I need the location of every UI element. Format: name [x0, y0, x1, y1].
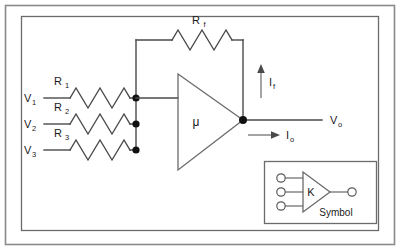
- amplifier-gain-label: μ: [193, 115, 200, 129]
- input-resistor-label-r2: R: [54, 101, 62, 113]
- input-source-sublabel-v1: 1: [32, 98, 36, 107]
- input-source-label-v2: V: [24, 118, 32, 130]
- output-junction-dot: [239, 116, 247, 124]
- junction-dot-v3: [132, 146, 139, 153]
- input-source-sublabel-v2: 2: [32, 124, 36, 133]
- output-voltage-label: V: [330, 114, 338, 126]
- input-resistor-sublabel-r2: 2: [65, 107, 69, 116]
- input-resistor-sublabel-r3: 3: [65, 133, 69, 142]
- output-current-label: I: [286, 129, 289, 141]
- circuit-figure: R f V 1 R 1 V 2 R 2 V 3 R 3: [0, 0, 400, 250]
- input-resistor-sublabel-r1: 1: [65, 81, 69, 90]
- circuit-diagram-canvas: R f V 1 R 1 V 2 R 2 V 3 R 3: [0, 0, 400, 250]
- junction-dot-v2: [132, 120, 139, 127]
- input-resistor-label-r1: R: [54, 75, 62, 87]
- symbol-input-terminal-1: [277, 174, 285, 182]
- feedback-current-label: I: [269, 76, 272, 88]
- symbol-output-terminal: [348, 188, 356, 196]
- output-current-sublabel: o: [290, 135, 294, 144]
- input-resistor-label-r3: R: [54, 127, 62, 139]
- output-voltage-sublabel: o: [338, 120, 342, 129]
- symbol-legend-caption: Symbol: [319, 207, 352, 218]
- input-source-label-v1: V: [24, 92, 32, 104]
- symbol-legend-box: K Symbol: [265, 162, 377, 224]
- symbol-input-terminal-2: [277, 188, 285, 196]
- input-source-label-v3: V: [24, 144, 32, 156]
- input-source-sublabel-v3: 3: [32, 150, 36, 159]
- symbol-gain-label: K: [307, 186, 315, 198]
- feedback-resistor-label: R: [192, 14, 200, 26]
- symbol-input-terminal-3: [277, 202, 285, 210]
